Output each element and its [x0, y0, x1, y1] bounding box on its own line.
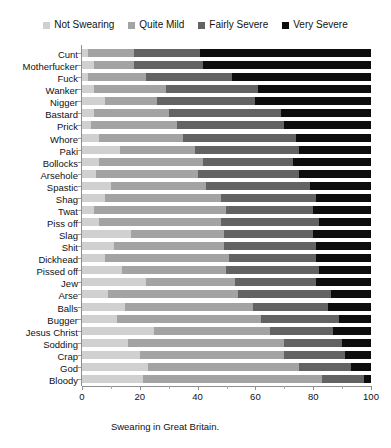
- y-axis-tick: [78, 258, 81, 259]
- y-axis-tick: [78, 246, 81, 247]
- bar-row[interactable]: [82, 375, 371, 383]
- bar-row[interactable]: [82, 73, 371, 81]
- bar-segment: [316, 242, 371, 250]
- bar-row[interactable]: [82, 278, 371, 286]
- bar-row[interactable]: [82, 218, 371, 226]
- bar-segment: [82, 351, 140, 359]
- bar-row[interactable]: [82, 170, 371, 178]
- bar-row[interactable]: [82, 315, 371, 323]
- x-axis-tick: [140, 386, 141, 390]
- plot-area: [82, 47, 371, 385]
- x-axis-tick-label: 100: [356, 392, 386, 402]
- bar-segment: [140, 351, 285, 359]
- bar-row[interactable]: [82, 109, 371, 117]
- y-axis-tick: [78, 282, 81, 283]
- bar-row[interactable]: [82, 158, 371, 166]
- bar-segment: [82, 290, 108, 298]
- y-axis-tick: [78, 77, 81, 78]
- bar-row[interactable]: [82, 266, 371, 274]
- bar-segment: [99, 158, 203, 166]
- chart-root: Not Swearing Quite Mild Fairly Severe Ve…: [0, 0, 391, 448]
- bar-segment: [221, 194, 316, 202]
- x-axis-tick-label: 60: [240, 392, 270, 402]
- bar-row[interactable]: [82, 327, 371, 335]
- bar-row[interactable]: [82, 303, 371, 311]
- bar-row[interactable]: [82, 121, 371, 129]
- bar-row[interactable]: [82, 134, 371, 142]
- bar-segment: [105, 194, 221, 202]
- x-axis-tick: [284, 386, 285, 389]
- bar-segment: [105, 97, 157, 105]
- legend-swatch-fairly-severe: [198, 22, 205, 29]
- bar-row[interactable]: [82, 290, 371, 298]
- y-axis-label: God: [0, 364, 78, 374]
- bar-row[interactable]: [82, 61, 371, 69]
- legend-swatch-quite-mild: [128, 22, 135, 29]
- y-axis-tick: [78, 319, 81, 320]
- bar-row[interactable]: [82, 242, 371, 250]
- bar-segment: [333, 327, 371, 335]
- x-axis-tick: [342, 386, 343, 389]
- bar-segment: [224, 242, 316, 250]
- bar-segment: [82, 194, 105, 202]
- bar-segment: [148, 363, 298, 371]
- bar-segment: [108, 290, 238, 298]
- bar-segment: [319, 266, 371, 274]
- bar-segment: [91, 121, 178, 129]
- legend-item-very-severe[interactable]: Very Severe: [282, 20, 347, 30]
- bar-row[interactable]: [82, 363, 371, 371]
- bar-segment: [82, 146, 120, 154]
- bar-segment: [342, 339, 371, 347]
- bar-segment: [146, 73, 233, 81]
- bar-segment: [198, 170, 299, 178]
- bar-row[interactable]: [82, 146, 371, 154]
- bar-segment: [94, 85, 166, 93]
- y-axis-tick: [78, 89, 81, 90]
- y-axis-tick: [78, 113, 81, 114]
- bar-segment: [299, 170, 371, 178]
- y-axis-label: Cunt: [0, 50, 78, 60]
- bar-segment: [169, 109, 282, 117]
- bar-row[interactable]: [82, 182, 371, 190]
- bar-row[interactable]: [82, 206, 371, 214]
- legend-item-not-swearing[interactable]: Not Swearing: [43, 20, 114, 30]
- bar-row[interactable]: [82, 230, 371, 238]
- bar-row[interactable]: [82, 254, 371, 262]
- y-axis-label: Jesus Christ: [0, 328, 78, 338]
- bar-row[interactable]: [82, 97, 371, 105]
- legend-item-fairly-severe[interactable]: Fairly Severe: [198, 20, 268, 30]
- bar-segment: [319, 218, 371, 226]
- bar-segment: [82, 170, 96, 178]
- bar-segment: [82, 315, 117, 323]
- bar-row[interactable]: [82, 339, 371, 347]
- bar-segment: [125, 303, 252, 311]
- y-axis-label: Arse: [0, 291, 78, 301]
- bar-row[interactable]: [82, 85, 371, 93]
- bar-segment: [143, 375, 322, 383]
- bar-segment: [253, 303, 328, 311]
- bar-segment: [351, 363, 371, 371]
- y-axis-label: Jew: [0, 279, 78, 289]
- x-axis-tick-label: 20: [125, 392, 155, 402]
- y-axis-label: Fuck: [0, 74, 78, 84]
- bar-segment: [203, 61, 371, 69]
- bar-segment: [316, 254, 371, 262]
- bar-segment: [94, 109, 169, 117]
- bar-segment: [82, 158, 99, 166]
- x-axis-tick-label: 40: [183, 392, 213, 402]
- bar-segment: [105, 254, 229, 262]
- bar-row[interactable]: [82, 194, 371, 202]
- bar-row[interactable]: [82, 351, 371, 359]
- bar-segment: [82, 375, 143, 383]
- y-axis-label: Motherfucker: [0, 62, 78, 72]
- bar-segment: [206, 182, 310, 190]
- bar-segment: [284, 121, 371, 129]
- bar-row[interactable]: [82, 49, 371, 57]
- legend-item-quite-mild[interactable]: Quite Mild: [128, 20, 184, 30]
- bar-segment: [82, 61, 94, 69]
- y-axis-tick: [78, 210, 81, 211]
- y-axis-tick: [78, 331, 81, 332]
- bar-segment: [345, 351, 371, 359]
- legend-swatch-very-severe: [282, 22, 289, 29]
- y-axis-line: [81, 45, 82, 386]
